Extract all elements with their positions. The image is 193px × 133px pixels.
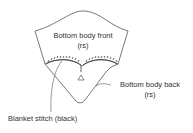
back-label: Bottom body back (rs): [112, 80, 188, 100]
stitch-label: Blanket stitch (black): [8, 114, 77, 124]
front-label-sub: (rs): [44, 41, 122, 51]
back-piece-outline: [45, 64, 118, 103]
back-leader-line: [96, 84, 111, 86]
back-label-text: Bottom body back: [112, 80, 188, 90]
fold-triangle-icon: [78, 75, 84, 80]
front-label: Bottom body front (rs): [44, 31, 122, 51]
front-label-text: Bottom body front: [44, 31, 122, 41]
stitch-leader-line: [51, 61, 62, 112]
back-label-sub: (rs): [112, 90, 188, 100]
